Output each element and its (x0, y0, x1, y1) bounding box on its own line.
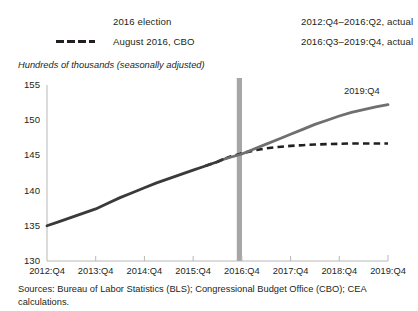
source-note: Sources: Bureau of Labor Statistics (BLS… (18, 283, 410, 308)
annotation-2019q4: 2019:Q4 (344, 86, 380, 96)
series-line-actual-pre (47, 160, 222, 226)
x-tick-2014-Q4: 2014:Q4 (120, 266, 168, 276)
x-axis-tick-marks (96, 256, 340, 261)
data-series-group (47, 105, 388, 226)
x-tick-2019-Q4: 2019:Q4 (364, 266, 412, 276)
series-line-actual-post (222, 105, 388, 160)
election-vertical-bar (237, 78, 242, 261)
x-tick-2017-Q4: 2017:Q4 (267, 266, 315, 276)
x-tick-2015-Q4: 2015:Q4 (169, 266, 217, 276)
chart-plot-area: 130135140145150155 2012:Q42013:Q42014:Q4… (0, 0, 418, 311)
y-tick-140: 140 (14, 185, 40, 196)
y-tick-130: 130 (14, 255, 40, 266)
election-marker-group (237, 78, 242, 261)
y-tick-135: 135 (14, 220, 40, 231)
chart-svg (0, 0, 418, 311)
x-tick-2012-Q4: 2012:Q4 (23, 266, 71, 276)
series-line-cbo (205, 143, 388, 166)
x-tick-2013-Q4: 2013:Q4 (72, 266, 120, 276)
axis-lines-group (47, 85, 388, 261)
y-tick-155: 155 (14, 79, 40, 90)
x-tick-2018-Q4: 2018:Q4 (315, 266, 363, 276)
y-tick-150: 150 (14, 114, 40, 125)
y-tick-145: 145 (14, 149, 40, 160)
x-tick-2016-Q4: 2016:Q4 (218, 266, 266, 276)
